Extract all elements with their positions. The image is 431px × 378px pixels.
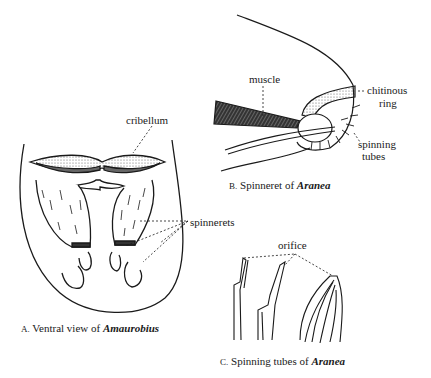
caption-text: Spinning tubes of bbox=[231, 355, 311, 367]
label-muscle: muscle bbox=[249, 73, 280, 85]
caption-figure-c: C. Spinning tubes of Aranea bbox=[220, 355, 345, 367]
label-tubes: tubes bbox=[362, 150, 385, 162]
figure-c-tubes bbox=[234, 258, 342, 343]
caption-figure-a: A. Ventral view of Amaurobius bbox=[21, 322, 159, 334]
figure-b-spinneret bbox=[214, 15, 360, 171]
label-spinning: spinning bbox=[358, 138, 396, 150]
caption-letter: C. bbox=[220, 357, 228, 367]
label-spinnerets: spinnerets bbox=[190, 216, 235, 228]
caption-text: Ventral view of bbox=[32, 322, 103, 334]
label-ring: ring bbox=[379, 97, 397, 109]
label-orifice: orifice bbox=[278, 239, 307, 251]
caption-letter: B. bbox=[229, 181, 237, 191]
figure-a-abdomen bbox=[20, 140, 183, 312]
caption-genus: Aranea bbox=[297, 179, 331, 191]
label-chitinous: chitinous bbox=[367, 84, 407, 96]
caption-genus: Aranea bbox=[311, 355, 345, 367]
caption-figure-b: B. Spinneret of Aranea bbox=[229, 179, 330, 191]
caption-text: Spinneret of bbox=[240, 179, 297, 191]
caption-letter: A. bbox=[21, 324, 30, 334]
caption-genus: Amaurobius bbox=[103, 322, 159, 334]
label-cribellum: cribellum bbox=[126, 114, 168, 126]
